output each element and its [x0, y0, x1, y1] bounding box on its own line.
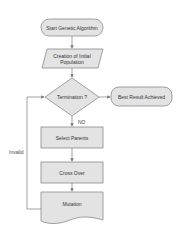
start-node-label: Start Genetic Algorithm	[41, 19, 103, 36]
init-population-label: Creation of Initial Population	[50, 50, 94, 67]
best-result-label: Best Result Achieved	[111, 87, 172, 106]
cross-over-label: Cross Over	[41, 162, 103, 183]
invalid-edge-label: Invalid	[9, 149, 23, 155]
no-edge-label: NO	[78, 119, 86, 125]
select-parents-label: Select Parents	[41, 127, 103, 148]
termination-label: Termination ?	[56, 89, 88, 105]
mutation-label: Mutation	[41, 192, 103, 216]
